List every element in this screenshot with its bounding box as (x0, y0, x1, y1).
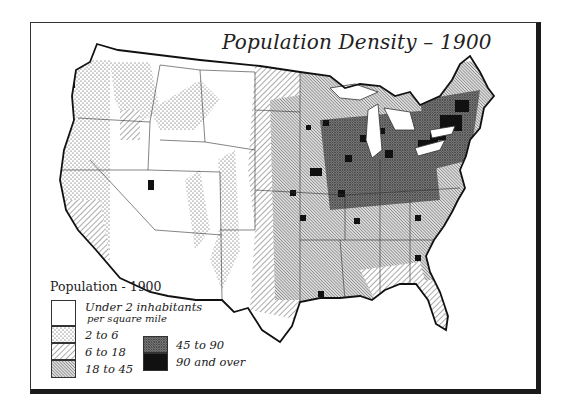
legend-swatch-90-plus (143, 353, 168, 371)
legend-swatch-6-18 (51, 343, 76, 360)
legend-swatch-under-2 (51, 300, 76, 326)
legend-label-2-6: 2 to 6 (85, 328, 119, 342)
legend-sublabel-under-2: per square mile (87, 313, 167, 324)
legend-label-under-2: Under 2 inhabitants (85, 300, 202, 314)
legend-label-90-plus: 90 and over (176, 355, 245, 369)
legend-label-45-90: 45 to 90 (176, 338, 224, 352)
map-title: Population Density – 1900 (222, 30, 492, 54)
legend-swatch-2-6 (51, 326, 76, 343)
legend-title: Population - 1900 (50, 279, 162, 294)
legend-swatch-18-45 (51, 360, 76, 378)
legend-label-6-18: 6 to 18 (85, 345, 126, 359)
legend-swatch-45-90 (143, 336, 168, 353)
legend-label-18-45: 18 to 45 (85, 362, 133, 376)
